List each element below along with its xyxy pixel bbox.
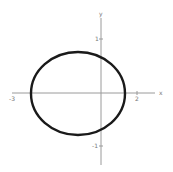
x-axis-label: x	[159, 89, 163, 96]
x-tick-label-2: 2	[135, 95, 139, 102]
x-tick-label-neg3: -3	[9, 95, 15, 102]
y-axis-label: y	[99, 10, 103, 18]
y-tick-label-1: 1	[95, 35, 99, 42]
ellipse-plot: -3 2 x y 1 -1	[0, 0, 173, 172]
y-tick-label-neg1: -1	[92, 142, 98, 149]
